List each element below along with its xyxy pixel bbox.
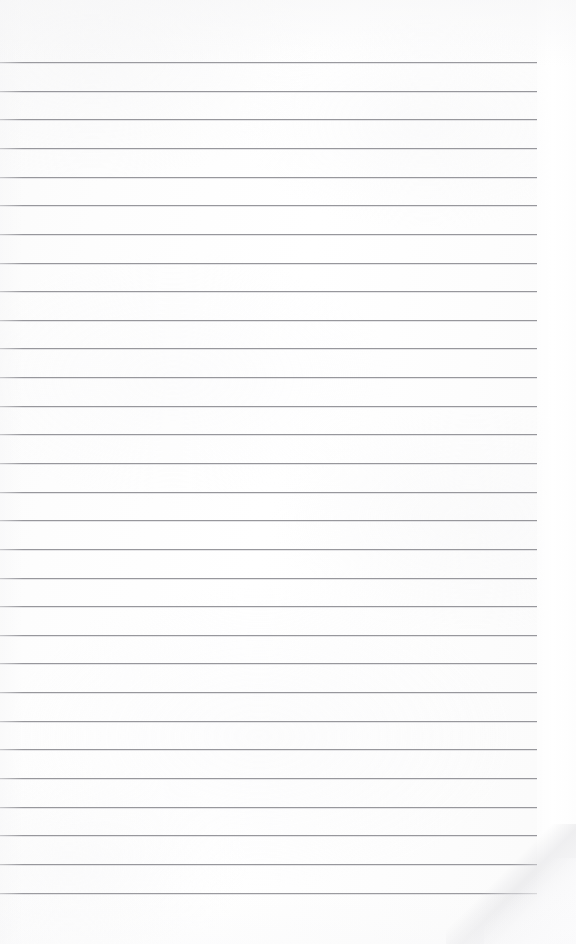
ruled-line [0,119,537,120]
ruled-line [0,864,537,865]
ruled-line [0,463,537,464]
ruled-line [0,377,537,378]
ruled-line [0,62,537,63]
scanned-page [0,0,576,944]
ruled-line [0,406,537,407]
ruled-line [0,606,537,607]
ruled-line [0,234,537,235]
ruled-line [0,893,537,894]
ruled-line [0,835,537,836]
ruled-line [0,263,537,264]
ruled-line [0,549,537,550]
ruled-line [0,778,537,779]
ruled-line [0,492,537,493]
ruled-line [0,749,537,750]
ruled-line [0,320,537,321]
ruled-line [0,148,537,149]
ruled-line [0,692,537,693]
ruled-line [0,578,537,579]
ruled-line [0,635,537,636]
ruled-line [0,205,537,206]
ruled-line [0,663,537,664]
ruled-line [0,348,537,349]
ruled-lines-group [0,0,576,944]
ruled-line [0,434,537,435]
ruled-line [0,520,537,521]
ruled-line [0,177,537,178]
ruled-line [0,91,537,92]
ruled-line [0,807,537,808]
ruled-line [0,721,537,722]
ruled-line [0,291,537,292]
